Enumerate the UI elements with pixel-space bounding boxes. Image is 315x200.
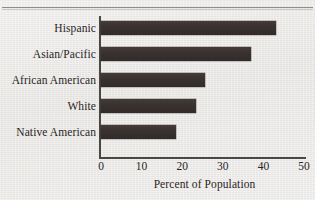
bar [101,73,205,87]
category-label: African American [12,74,96,87]
x-axis-title: Percent of Population [0,178,315,191]
bar [101,47,251,61]
x-tick-label: 40 [258,160,270,173]
x-axis-title-label: Percent of Population [154,178,256,191]
category-label: Asian/Pacific [33,48,96,61]
x-tick-label: 0 [98,160,104,173]
bar-chart: HispanicAsian/PacificAfrican AmericanWhi… [0,0,315,200]
page-rule-top [2,7,313,8]
category-label: Hispanic [54,22,96,35]
x-tick-label: 20 [176,160,188,173]
page-rule-top-shadow [2,9,313,10]
bar-row: Native American [0,119,315,145]
bar-row: African American [0,67,315,93]
bar-row: Asian/Pacific [0,41,315,67]
x-tick-label: 30 [217,160,229,173]
category-label: Native American [16,126,96,139]
category-label: White [67,100,96,113]
x-tick-label: 50 [298,160,310,173]
bar-row: White [0,93,315,119]
bar [101,21,276,35]
x-tick-label: 10 [136,160,148,173]
x-axis-line [99,157,306,159]
bar-row: Hispanic [0,15,315,41]
bar [101,99,196,113]
bar [101,125,176,139]
